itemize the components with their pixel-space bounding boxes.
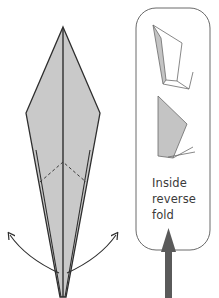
callout-label-line-3: fold <box>152 207 212 223</box>
folded-model <box>26 27 100 297</box>
origami-diagram <box>0 0 219 298</box>
callout-label-line-2: reverse <box>152 191 212 207</box>
callout-label: Inside reverse fold <box>152 175 212 223</box>
callout-label-line-1: Inside <box>152 175 212 191</box>
